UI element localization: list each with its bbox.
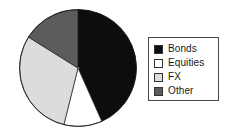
pie-chart-svg: Bonds: 43Equities: 11FX: 30Other: 16	[19, 9, 137, 127]
chart-canvas: Bonds: 43Equities: 11FX: 30Other: 16 Bon…	[0, 0, 226, 135]
legend-swatch-equities	[154, 59, 163, 68]
legend-label: Other	[168, 86, 194, 96]
chart-legend: BondsEquitiesFXOther	[148, 37, 219, 101]
legend-swatch-other	[154, 87, 163, 96]
legend-label: Bonds	[168, 44, 197, 54]
legend-item-other[interactable]: Other	[154, 84, 218, 98]
legend-swatch-fx	[154, 73, 163, 82]
pie-center-dot	[77, 67, 79, 69]
legend-label: Equities	[168, 58, 204, 68]
legend-label: FX	[168, 72, 181, 82]
pie-chart: Bonds: 43Equities: 11FX: 30Other: 16	[19, 9, 137, 127]
legend-item-bonds[interactable]: Bonds	[154, 42, 218, 56]
legend-item-equities[interactable]: Equities	[154, 56, 218, 70]
legend-swatch-bonds	[154, 45, 163, 54]
legend-item-fx[interactable]: FX	[154, 70, 218, 84]
